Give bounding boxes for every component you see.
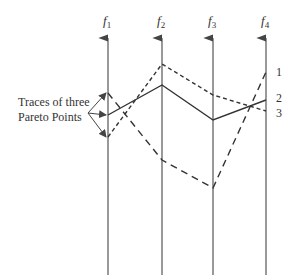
trace-3 <box>108 64 266 137</box>
pointer-arrow <box>88 93 106 113</box>
axis-label-f2: f2 <box>157 13 165 30</box>
caption-line-2: Pareto Points <box>18 110 82 124</box>
trace-label-1: 1 <box>276 65 282 79</box>
parallel-coordinates-diagram: f1f2f3f4 123 Traces of three Pareto Poin… <box>0 0 293 280</box>
traces: 123 <box>108 64 282 188</box>
axis-label-f1: f1 <box>103 13 111 30</box>
trace-label-2: 2 <box>276 91 282 105</box>
axis-label-f3: f3 <box>208 13 217 30</box>
axis-label-f4: f4 <box>261 13 270 30</box>
trace-label-3: 3 <box>276 106 282 120</box>
caption: Traces of three Pareto Points <box>18 93 106 137</box>
trace-2 <box>108 85 266 120</box>
pointer-arrow <box>88 113 106 137</box>
trace-1 <box>108 72 266 188</box>
axes: f1f2f3f4 <box>103 13 270 275</box>
caption-line-1: Traces of three <box>18 95 90 109</box>
pointer-arrow <box>88 113 106 115</box>
pointer-arrows <box>88 93 106 137</box>
